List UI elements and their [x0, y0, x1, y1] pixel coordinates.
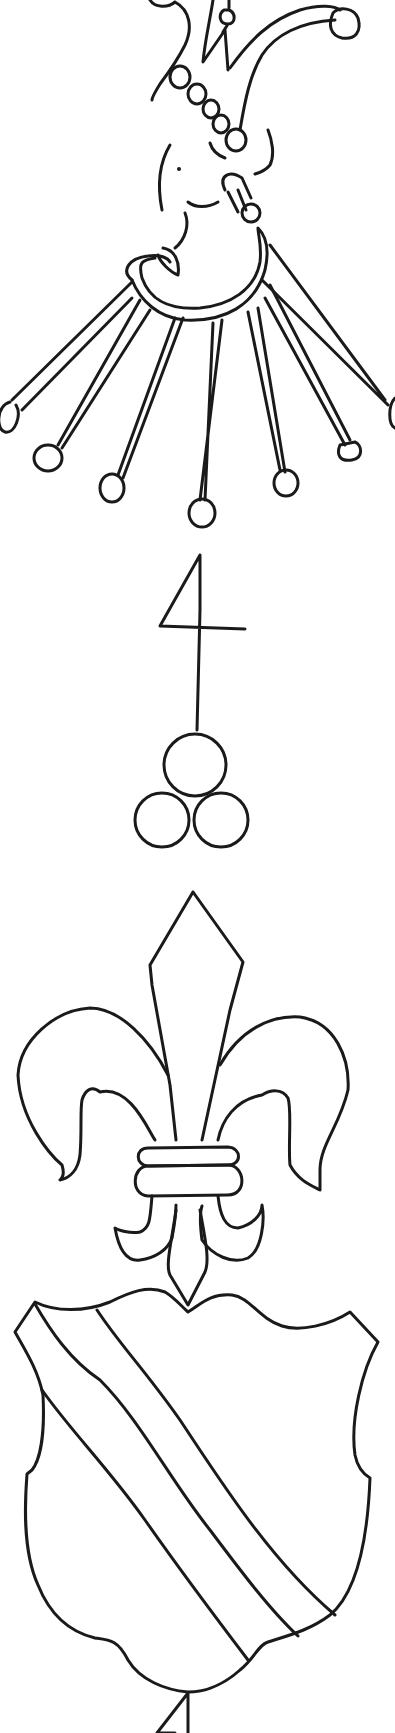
- shield-bend-upper: [97, 1310, 335, 1615]
- collar: [132, 228, 267, 320]
- hat-right-point: [230, 6, 340, 130]
- shield-bend-middle: [35, 1304, 298, 1636]
- pipe-bowl: [242, 204, 260, 222]
- hat-middle-tassel: [220, 0, 234, 32]
- collar-points: [0, 245, 395, 527]
- watermark-drawing: [0, 0, 395, 1733]
- three-circles: [135, 734, 248, 847]
- hat-pearl-band: [170, 66, 246, 151]
- smile: [188, 202, 218, 207]
- neck: [175, 213, 187, 248]
- hat-left-point: [150, 0, 189, 100]
- eyebrow: [210, 143, 225, 158]
- eye: [177, 167, 181, 171]
- shield-outline: [15, 1289, 378, 1692]
- stem-fragment: [157, 1693, 188, 1733]
- numeral-four: [160, 555, 245, 730]
- face-outline: [160, 145, 170, 210]
- fleur-de-lis: [18, 892, 348, 1305]
- head-back: [255, 130, 273, 174]
- jester-head: [0, 0, 395, 527]
- shield: [15, 1289, 378, 1692]
- hat-bell-icon: [330, 9, 359, 38]
- shield-bend-lower: [42, 1390, 248, 1660]
